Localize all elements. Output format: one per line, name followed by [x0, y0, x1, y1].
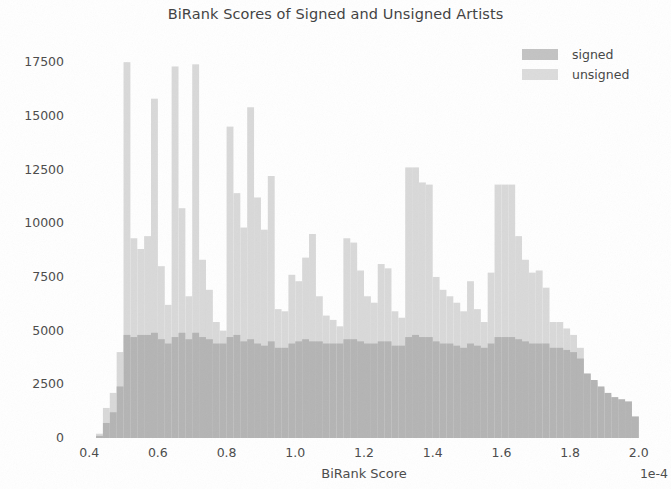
histogram-bar [295, 341, 302, 438]
histogram-bar [261, 346, 268, 438]
y-tick-label: 10000 [6, 215, 64, 230]
x-axis-label: BiRank Score [72, 466, 656, 481]
histogram-bar [618, 399, 625, 438]
x-tick-label: 0.4 [67, 445, 111, 460]
histogram-bar [591, 380, 598, 438]
histogram-bar [563, 350, 570, 438]
histogram-bar [124, 335, 131, 438]
x-tick-label: 1.8 [548, 445, 592, 460]
histogram-bar [165, 344, 172, 438]
histogram-bar [550, 348, 557, 438]
legend-swatch-icon [522, 49, 558, 60]
histogram-bar [556, 348, 563, 438]
x-axis-exponent-label: 1e-4 [620, 466, 668, 481]
plot-area [72, 45, 656, 438]
histogram-bar [467, 344, 474, 438]
x-tick-label: 2.0 [617, 445, 661, 460]
histogram-bar [337, 344, 344, 438]
histogram-bar [199, 337, 206, 438]
x-tick-label: 1.0 [273, 445, 317, 460]
histogram-bar [611, 397, 618, 438]
histogram-bar [501, 337, 508, 438]
histogram-bar [240, 341, 247, 438]
histogram-bar [268, 341, 275, 438]
histogram-bar [110, 412, 117, 438]
y-tick-label: 7500 [6, 269, 64, 284]
legend-label: unsigned [572, 67, 629, 82]
histogram-bar [144, 335, 151, 438]
histogram-bar [433, 341, 440, 438]
histogram-bar [302, 339, 309, 438]
histogram-bar [632, 417, 639, 438]
histogram-bar [495, 337, 502, 438]
histogram-bar [254, 344, 261, 438]
legend-item-signed[interactable]: signed [522, 44, 664, 64]
histogram-bar [192, 333, 199, 438]
legend-item-unsigned[interactable]: unsigned [522, 64, 664, 84]
y-tick-label: 0 [6, 430, 64, 445]
histogram-bar [137, 335, 144, 438]
histogram-bar [330, 344, 337, 438]
histogram-bar [398, 346, 405, 438]
histogram-bar [227, 337, 234, 438]
histogram-bar [536, 344, 543, 438]
histogram-bar [378, 341, 385, 438]
histogram-bar [282, 348, 289, 438]
histogram-bar [419, 337, 426, 438]
chart-legend: signedunsigned [522, 44, 664, 84]
histogram-bar [570, 352, 577, 438]
x-tick-label: 1.2 [342, 445, 386, 460]
histogram-bar [391, 346, 398, 438]
y-tick-label: 15000 [6, 108, 64, 123]
series-signed [96, 333, 639, 438]
histogram-bar [316, 341, 323, 438]
page-title: BiRank Scores of Signed and Unsigned Art… [0, 6, 671, 22]
histogram-bar [206, 339, 213, 438]
histogram-bar [103, 423, 110, 438]
histogram-bars [72, 45, 656, 438]
x-tick-label: 1.4 [411, 445, 455, 460]
histogram-bar [529, 344, 536, 438]
histogram-bar [247, 339, 254, 438]
histogram-bar [178, 333, 185, 438]
y-tick-label: 17500 [6, 54, 64, 69]
histogram-bar [460, 348, 467, 438]
legend-label: signed [572, 47, 613, 62]
histogram-bar [309, 341, 316, 438]
histogram-bar [185, 339, 192, 438]
x-tick-label: 0.8 [205, 445, 249, 460]
histogram-bar [213, 344, 220, 438]
histogram-bar [172, 337, 179, 438]
histogram-bar [158, 339, 165, 438]
legend-swatch-icon [522, 69, 558, 80]
histogram-bar [364, 344, 371, 438]
histogram-bar [350, 339, 357, 438]
histogram-bar [481, 348, 488, 438]
histogram-bar [343, 339, 350, 438]
histogram-bar [117, 386, 124, 438]
histogram-bar [440, 344, 447, 438]
histogram-bar [625, 401, 632, 438]
histogram-bar [453, 346, 460, 438]
histogram-bar [220, 344, 227, 438]
histogram-bar [275, 348, 282, 438]
x-tick-label: 1.6 [479, 445, 523, 460]
histogram-bar [426, 337, 433, 438]
histogram-bar [151, 333, 158, 438]
histogram-bar [474, 346, 481, 438]
histogram-bar [130, 337, 137, 438]
histogram-bar [508, 337, 515, 438]
histogram-bar [288, 344, 295, 438]
histogram-bar [577, 359, 584, 438]
histogram-bar [446, 344, 453, 438]
histogram-bar [488, 344, 495, 438]
histogram-bar [598, 386, 605, 438]
histogram-bar [543, 344, 550, 438]
histogram-bar [604, 393, 611, 438]
histogram-bar [515, 339, 522, 438]
y-tick-label: 2500 [6, 376, 64, 391]
histogram-bar [522, 341, 529, 438]
histogram-bar [323, 344, 330, 438]
histogram-bar [233, 335, 240, 438]
histogram-bar [96, 436, 103, 438]
